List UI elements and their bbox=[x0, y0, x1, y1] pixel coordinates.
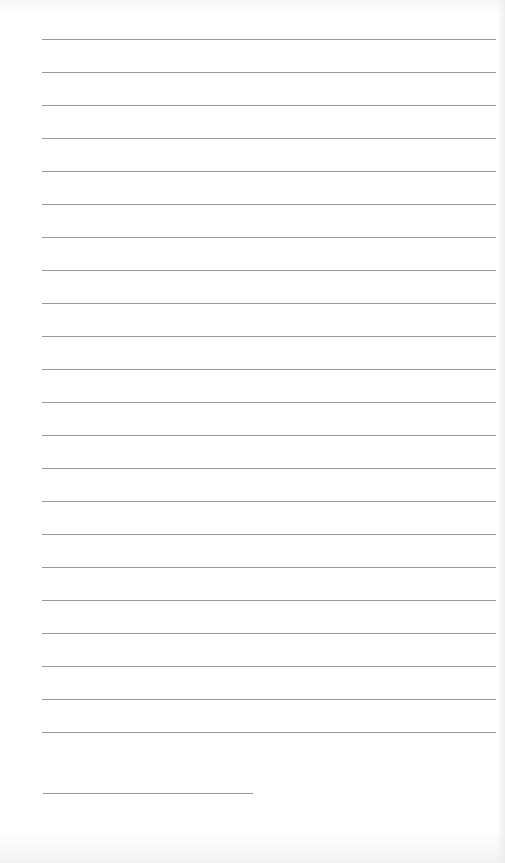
ruled-line bbox=[42, 138, 496, 139]
ruled-line bbox=[42, 567, 496, 568]
ruled-line bbox=[42, 171, 496, 172]
ruled-line bbox=[42, 435, 496, 436]
ruled-line bbox=[42, 402, 496, 403]
ruled-line bbox=[42, 732, 496, 733]
lined-paper-page bbox=[0, 0, 505, 863]
ruled-line bbox=[42, 633, 496, 634]
ruled-line bbox=[42, 534, 496, 535]
ruled-line bbox=[42, 699, 496, 700]
ruled-line bbox=[42, 270, 496, 271]
ruled-line bbox=[42, 336, 496, 337]
signature-line bbox=[43, 793, 253, 794]
ruled-line bbox=[42, 303, 496, 304]
ruled-line bbox=[42, 369, 496, 370]
page-edge-shadow bbox=[497, 0, 505, 863]
ruled-line bbox=[42, 501, 496, 502]
ruled-line bbox=[42, 204, 496, 205]
ruled-line bbox=[42, 237, 496, 238]
ruled-line bbox=[42, 39, 496, 40]
ruled-line bbox=[42, 468, 496, 469]
ruled-line bbox=[42, 666, 496, 667]
ruled-line bbox=[42, 72, 496, 73]
ruled-line bbox=[42, 600, 496, 601]
ruled-line bbox=[42, 105, 496, 106]
